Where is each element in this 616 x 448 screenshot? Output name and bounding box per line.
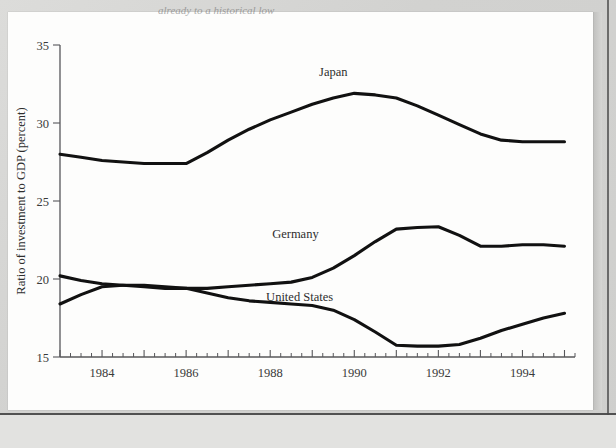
line-chart: 1520253035 198419861988199019921994 Japa…	[8, 12, 593, 410]
y-axis: 1520253035	[37, 39, 61, 365]
page-shadow	[593, 12, 602, 410]
x-axis-tick-label: 1990	[342, 366, 367, 380]
y-axis-tick-label: 25	[37, 195, 50, 209]
y-axis-tick-label: 30	[37, 117, 50, 131]
series-label-united-states: United States	[266, 290, 333, 304]
series-label-japan: Japan	[319, 65, 348, 79]
chart-canvas: 1520253035 198419861988199019921994 Japa…	[8, 12, 593, 410]
page-bottom-margin	[0, 415, 616, 448]
series-line-japan	[60, 93, 564, 163]
scanned-page: already to a historical low 1520253035 1…	[8, 12, 593, 410]
y-axis-tick-label: 20	[37, 273, 50, 287]
y-axis-title-text: Ratio of investment to GDP (percent)	[14, 107, 28, 294]
x-axis-tick-label: 1988	[258, 366, 283, 380]
series-lines	[60, 93, 564, 346]
x-axis-tick-label: 1986	[174, 366, 199, 380]
y-axis-tick-label: 35	[37, 39, 50, 53]
x-axis-tick-label: 1994	[510, 366, 536, 380]
page-right-rule	[607, 0, 609, 415]
x-axis: 198419861988199019921994	[60, 350, 575, 380]
x-axis-tick-label: 1984	[90, 366, 116, 380]
y-axis-title: Ratio of investment to GDP (percent)	[14, 107, 28, 294]
y-axis-tick-label: 15	[37, 351, 50, 365]
series-label-germany: Germany	[272, 227, 319, 241]
x-axis-tick-label: 1992	[426, 366, 451, 380]
